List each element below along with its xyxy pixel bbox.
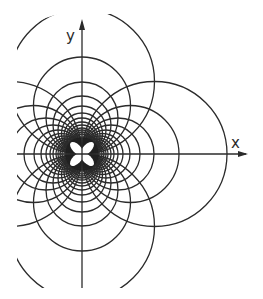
y-axis-arrow-icon xyxy=(79,19,85,30)
y-axis-label: y xyxy=(66,27,75,45)
x-axis-label: x xyxy=(231,134,240,152)
circle-field-diagram: x y xyxy=(0,0,263,299)
